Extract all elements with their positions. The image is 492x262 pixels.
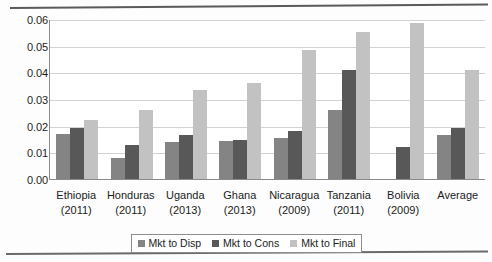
x-tick-label-name: Uganda bbox=[158, 188, 213, 203]
bar bbox=[165, 142, 179, 179]
legend-swatch-icon bbox=[138, 240, 145, 247]
chart-legend: Mkt to DispMkt to ConsMkt to Final bbox=[131, 234, 362, 253]
x-tick-label-year: (2009) bbox=[376, 203, 431, 218]
bar-group bbox=[213, 20, 267, 179]
x-tick-label-name: Nicaragua bbox=[267, 188, 322, 203]
x-tick-label: Nicaragua(2009) bbox=[267, 188, 322, 217]
legend-swatch-icon bbox=[212, 240, 219, 247]
x-tick-label: Bolivia(2009) bbox=[376, 188, 431, 217]
bar bbox=[233, 140, 247, 179]
bar-group bbox=[159, 20, 213, 179]
x-tick-label: Uganda(2013) bbox=[158, 188, 213, 217]
bar bbox=[396, 147, 410, 179]
legend-item[interactable]: Mkt to Cons bbox=[212, 238, 279, 249]
y-tick-label: 0.01 bbox=[6, 148, 48, 159]
bar-group bbox=[104, 20, 158, 179]
x-tick-label-year: (2011) bbox=[49, 203, 104, 218]
x-tick-label-year: (2011) bbox=[322, 203, 377, 218]
x-tick-label-name: Average bbox=[431, 188, 486, 203]
x-tick-label-name: Tanzania bbox=[322, 188, 377, 203]
bar-group bbox=[322, 20, 376, 179]
bar bbox=[125, 145, 139, 179]
y-tick-label: 0.02 bbox=[6, 121, 48, 132]
bar bbox=[451, 128, 465, 179]
x-tick-label-name: Bolivia bbox=[376, 188, 431, 203]
bar bbox=[219, 141, 233, 179]
x-tick-label-name: Honduras bbox=[104, 188, 159, 203]
legend-label: Mkt to Cons bbox=[223, 238, 279, 249]
bar bbox=[356, 32, 370, 179]
legend-item[interactable]: Mkt to Final bbox=[290, 238, 355, 249]
x-axis: Ethiopia(2011)Honduras(2011)Uganda(2013)… bbox=[49, 188, 485, 217]
legend-swatch-icon bbox=[290, 240, 297, 247]
bar bbox=[328, 110, 342, 179]
bar bbox=[465, 70, 479, 179]
bar-group bbox=[431, 20, 485, 179]
bar bbox=[179, 135, 193, 179]
bar bbox=[56, 134, 70, 179]
bar bbox=[302, 50, 316, 179]
x-tick-label: Ethiopia(2011) bbox=[49, 188, 104, 217]
bars-layer bbox=[50, 20, 485, 179]
x-tick-label-name: Ghana bbox=[213, 188, 268, 203]
legend-label: Mkt to Final bbox=[301, 238, 355, 249]
bar bbox=[111, 158, 125, 179]
y-tick-label: 0.05 bbox=[6, 41, 48, 52]
y-tick-label: 0.03 bbox=[6, 95, 48, 106]
bar-group bbox=[50, 20, 104, 179]
x-tick-label-year: (2013) bbox=[213, 203, 268, 218]
bar bbox=[193, 90, 207, 179]
legend-item[interactable]: Mkt to Disp bbox=[138, 238, 202, 249]
y-tick-label: 0.06 bbox=[6, 15, 48, 26]
plot-canvas bbox=[49, 20, 485, 180]
bar bbox=[437, 135, 451, 179]
plot-area: 0.060.050.040.030.020.010.00 bbox=[0, 12, 492, 188]
page-rule-top bbox=[10, 3, 488, 9]
bar bbox=[139, 110, 153, 179]
bar-chart: 0.060.050.040.030.020.010.00 Ethiopia(20… bbox=[0, 12, 492, 250]
y-axis: 0.060.050.040.030.020.010.00 bbox=[6, 20, 48, 180]
x-tick-label: Average bbox=[431, 188, 486, 217]
bar bbox=[84, 120, 98, 179]
x-tick-label-name: Ethiopia bbox=[49, 188, 104, 203]
bar bbox=[342, 70, 356, 179]
bar bbox=[288, 131, 302, 179]
bar-group bbox=[268, 20, 322, 179]
bar bbox=[274, 138, 288, 179]
x-tick-label: Ghana(2013) bbox=[213, 188, 268, 217]
bar bbox=[247, 83, 261, 179]
x-tick-label-year: (2009) bbox=[267, 203, 322, 218]
y-tick-label: 0.00 bbox=[6, 175, 48, 186]
x-tick-label: Honduras(2011) bbox=[104, 188, 159, 217]
x-tick-label-year: (2013) bbox=[158, 203, 213, 218]
legend-label: Mkt to Disp bbox=[149, 238, 202, 249]
y-tick-label: 0.04 bbox=[6, 68, 48, 79]
x-tick-label-year: (2011) bbox=[104, 203, 159, 218]
x-tick-label: Tanzania(2011) bbox=[322, 188, 377, 217]
bar bbox=[410, 23, 424, 179]
bar-group bbox=[376, 20, 430, 179]
bar bbox=[70, 128, 84, 179]
